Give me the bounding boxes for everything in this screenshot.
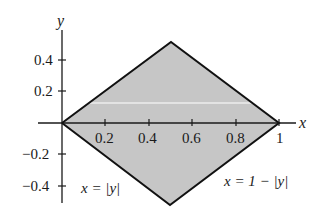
y-tick-label: −0.2 [22, 146, 49, 162]
y-axis-label: y [55, 12, 65, 30]
left-boundary-label: x = |y| [80, 180, 120, 196]
x-axis-label: x [298, 114, 306, 131]
y-tick-label: 0.2 [34, 83, 53, 99]
diamond-region-plot: 0.2 0.4 0.6 0.8 1 0.4 0.2 −0.2 −0.4 y x … [0, 0, 325, 219]
x-tick-label: 0.6 [182, 130, 201, 146]
x-tick-label: 0.4 [138, 130, 157, 146]
x-tick-label: 0.8 [226, 130, 245, 146]
y-tick-label: −0.4 [22, 178, 50, 194]
x-tick-label: 0.2 [95, 130, 114, 146]
right-boundary-label: x = 1 − |y| [223, 173, 288, 189]
x-tick-label: 1 [276, 130, 284, 146]
y-tick-label: 0.4 [34, 52, 53, 68]
